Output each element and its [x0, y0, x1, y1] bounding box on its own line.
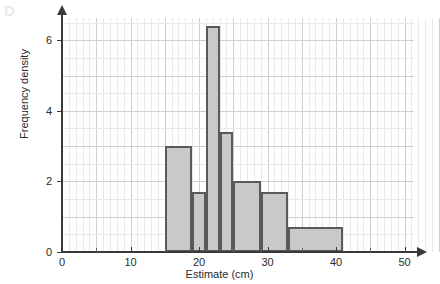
x-tick-mark — [131, 247, 132, 252]
histogram-bars — [62, 18, 414, 252]
y-tick-label: 0 — [0, 246, 52, 258]
x-axis-title: Estimate (cm) — [0, 268, 439, 280]
histogram-bar — [233, 181, 260, 252]
plot-area — [62, 18, 414, 252]
y-tick-label: 2 — [0, 175, 52, 187]
x-tick-label: 0 — [59, 256, 65, 268]
page-watermark: D — [4, 2, 15, 19]
x-tick-mark-minor — [165, 248, 166, 252]
histogram-bar — [192, 192, 206, 252]
x-tick-mark-minor — [370, 248, 371, 252]
x-tick-label: 30 — [261, 256, 273, 268]
x-tick-label: 10 — [124, 256, 136, 268]
x-tick-mark — [268, 247, 269, 252]
histogram-bar — [206, 26, 220, 252]
y-tick-mark — [57, 40, 63, 41]
y-axis-title: Frequency density — [18, 24, 30, 164]
x-tick-label: 40 — [330, 256, 342, 268]
gridline-vertical — [425, 18, 426, 252]
x-tick-mark-minor — [233, 248, 234, 252]
x-tick-mark — [405, 247, 406, 252]
gridline-vertical — [432, 18, 433, 252]
y-tick-mark — [57, 252, 63, 253]
y-tick-mark — [57, 181, 63, 182]
gridline-vertical — [418, 18, 419, 252]
y-axis-line — [61, 14, 63, 253]
x-tick-label: 50 — [398, 256, 410, 268]
histogram-bar — [165, 146, 192, 252]
histogram-bar — [220, 132, 234, 252]
y-tick-mark — [57, 111, 63, 112]
x-tick-mark — [199, 247, 200, 252]
x-tick-mark — [336, 247, 337, 252]
histogram-bar — [261, 192, 288, 252]
x-tick-mark-minor — [302, 248, 303, 252]
x-axis-line — [62, 251, 418, 253]
x-tick-label: 20 — [193, 256, 205, 268]
histogram-bar — [288, 227, 343, 252]
x-tick-mark-minor — [96, 248, 97, 252]
